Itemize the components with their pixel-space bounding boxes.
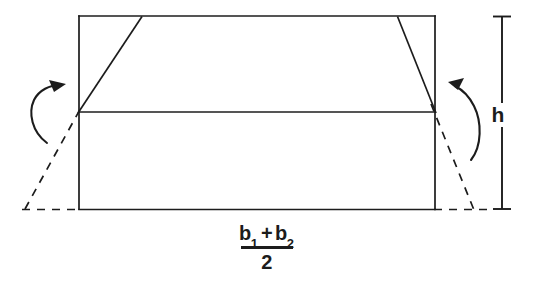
trapezoid-left-leg: [78, 17, 142, 114]
figure-canvas: [0, 0, 537, 303]
dashed-left-leg: [25, 104, 83, 209]
rotate-right-arrowhead: [448, 78, 464, 90]
trapezoid-right-leg: [398, 17, 437, 114]
rotate-left-arrow: [31, 80, 66, 143]
rotate-left-arrowhead: [49, 80, 66, 92]
geometry-figure: h b1+b2 2: [0, 0, 537, 303]
rotate-right-arrow: [448, 78, 480, 160]
dashed-right-leg: [431, 104, 474, 210]
height-dimension-line: [493, 16, 511, 209]
